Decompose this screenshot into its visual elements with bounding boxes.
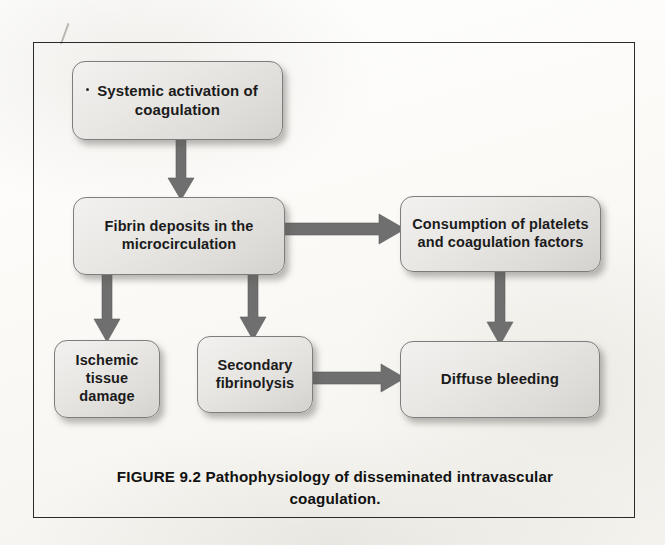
node-systemic-activation: Systemic activation of coagulation [72,61,283,140]
node-systemic-activation-label: Systemic activation of coagulation [89,82,266,119]
arrow-consumption-to-diffuse [487,269,513,345]
node-secondary-fibrinolysis-label: Secondary fibrinolysis [208,357,303,393]
figure-caption: FIGURE 9.2 Pathophysiology of disseminat… [46,466,624,509]
node-fibrin-deposits-label: Fibrin deposits in the microcirculation [97,218,262,254]
node-diffuse-bleeding-label: Diffuse bleeding [433,370,567,389]
figure-page: Systemic activation of coagulation Fibri… [0,0,665,545]
node-secondary-fibrinolysis: Secondary fibrinolysis [197,336,313,413]
node-ischemic-tissue-damage-label: Ischemic tissue damage [68,352,147,406]
arrow-fibrin-to-consumption [281,214,405,244]
scan-dot-artifact [86,88,89,91]
node-fibrin-deposits: Fibrin deposits in the microcirculation [73,197,285,275]
figure-caption-line-2: coagulation. [46,488,624,510]
arrow-systemic-to-fibrin [168,138,194,200]
node-consumption-platelets: Consumption of platelets and coagulation… [400,196,601,272]
figure-caption-line-1: FIGURE 9.2 Pathophysiology of disseminat… [46,466,624,488]
arrow-fibrin-to-ischemic [94,272,120,342]
arrow-secondary-to-diffuse [309,364,405,392]
node-ischemic-tissue-damage: Ischemic tissue damage [54,340,160,418]
arrow-fibrin-to-secondary [240,272,266,340]
node-consumption-platelets-label: Consumption of platelets and coagulation… [404,216,596,252]
node-diffuse-bleeding: Diffuse bleeding [400,341,600,418]
